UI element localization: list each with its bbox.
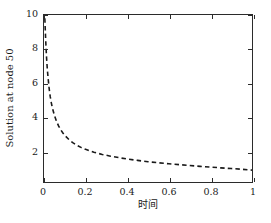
y-tick-mark	[44, 84, 48, 85]
y-tick-label: 2	[32, 147, 38, 157]
y-tick-mark	[248, 49, 252, 50]
x-tick-mark	[128, 178, 129, 182]
x-tick-mark	[128, 15, 129, 19]
y-tick-mark	[44, 15, 48, 16]
x-tick-mark	[44, 178, 45, 182]
x-tick-label: 0.6	[161, 187, 176, 197]
x-tick-mark	[254, 15, 255, 19]
x-tick-mark	[170, 15, 171, 19]
data-series-line	[45, 18, 252, 170]
y-tick-label: 6	[32, 78, 38, 88]
data-curve-svg	[44, 15, 252, 182]
y-tick-mark	[44, 49, 48, 50]
x-tick-mark	[170, 178, 171, 182]
chart-figure: 00.20.40.60.81246810 时间 Solution at node…	[0, 0, 271, 223]
plot-area	[43, 14, 253, 183]
x-tick-mark	[86, 15, 87, 19]
y-tick-mark	[44, 118, 48, 119]
y-tick-mark	[248, 153, 252, 154]
x-tick-mark	[212, 15, 213, 19]
y-tick-label: 10	[26, 9, 38, 19]
y-tick-label: 4	[32, 113, 38, 123]
x-tick-label: 1	[250, 187, 256, 197]
y-tick-mark	[248, 118, 252, 119]
x-tick-mark	[212, 178, 213, 182]
x-tick-label: 0.4	[119, 187, 134, 197]
x-axis-label: 时间	[138, 200, 158, 210]
x-tick-label: 0.8	[203, 187, 218, 197]
x-tick-mark	[86, 178, 87, 182]
x-tick-label: 0	[40, 187, 46, 197]
x-tick-mark	[254, 178, 255, 182]
y-axis-label: Solution at node 50	[5, 48, 15, 147]
y-tick-mark	[44, 153, 48, 154]
y-tick-label: 8	[32, 44, 38, 54]
y-tick-mark	[248, 15, 252, 16]
x-tick-label: 0.2	[77, 187, 92, 197]
y-tick-mark	[248, 84, 252, 85]
